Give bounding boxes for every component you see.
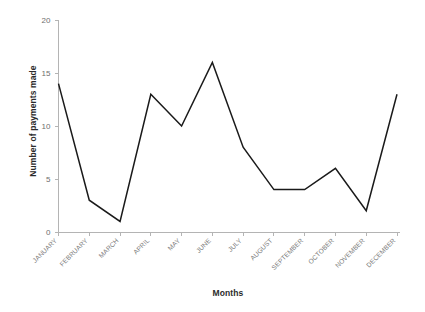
x-tick-label: MARCH (97, 237, 119, 259)
x-tick-label: AUGUST (249, 237, 274, 262)
x-tick-label: APRIL (132, 237, 151, 256)
y-tick-label: 10 (42, 122, 51, 131)
x-tick-label: FEBRUARY (58, 236, 89, 267)
x-axis-title: Months (58, 288, 398, 298)
data-series-line (59, 62, 398, 221)
x-tick-label: JULY (227, 236, 244, 253)
x-tick-label: JANUARY (31, 236, 58, 263)
plot-area: 05101520 JANUARYFEBRUARYMARCHAPRILMAYJUN… (0, 0, 425, 312)
x-tick-label: SEPTEMBER (270, 237, 304, 271)
x-tick-label: OCTOBER (307, 237, 336, 266)
x-tick-label: JUNE (195, 236, 213, 254)
x-tick-label: DECEMBER (365, 237, 397, 269)
y-tick-label: 15 (42, 69, 51, 78)
y-tick-label: 5 (46, 175, 51, 184)
x-tick-label: MAY (166, 236, 181, 251)
y-axis-ticks: 05101520 (42, 16, 59, 237)
line-chart-figure: Number of payments made 05101520 JANUARY… (0, 0, 425, 312)
x-axis-ticks: JANUARYFEBRUARYMARCHAPRILMAYJUNEJULYAUGU… (31, 232, 397, 271)
x-tick-label: NOVEMBER (334, 237, 366, 269)
y-tick-label: 0 (46, 228, 51, 237)
y-tick-label: 20 (42, 16, 51, 25)
